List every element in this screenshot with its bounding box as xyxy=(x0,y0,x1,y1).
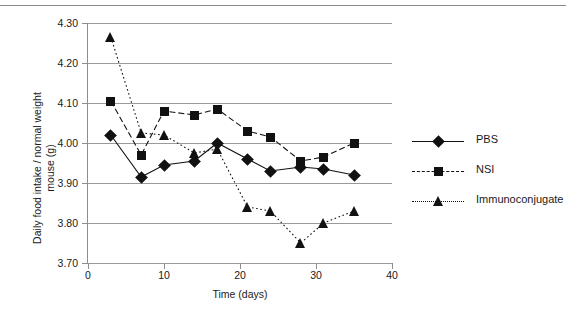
legend-item-pbs: PBS xyxy=(412,128,564,158)
legend-sample xyxy=(412,165,464,179)
y-axis-tick-label: 4.00 xyxy=(38,138,78,149)
square-marker xyxy=(137,151,146,160)
square-marker xyxy=(296,157,305,166)
triangle-marker xyxy=(136,128,146,138)
y-axis-tick-label: 3.90 xyxy=(38,178,78,189)
square-marker xyxy=(106,97,115,106)
square-marker xyxy=(434,167,443,176)
x-axis-tick-label: 20 xyxy=(220,270,260,281)
diamond-marker xyxy=(432,135,445,148)
series-line-nsi xyxy=(111,101,354,161)
triangle-marker xyxy=(295,238,305,248)
triangle-marker xyxy=(265,206,275,216)
triangle-marker xyxy=(212,144,222,154)
series-line-immunoconjugate xyxy=(111,37,354,243)
x-axis-tick-label: 40 xyxy=(372,270,412,281)
legend-item-immunoconjugate: Immunoconjugate xyxy=(412,188,564,218)
top-divider-rule xyxy=(0,5,566,6)
x-axis-title: Time (days) xyxy=(88,288,392,300)
series-lines xyxy=(88,23,392,263)
legend-sample xyxy=(412,135,464,149)
legend-item-nsi: NSI xyxy=(412,158,564,188)
y-axis-tick-label: 3.70 xyxy=(38,258,78,269)
y-axis-tick-label: 4.20 xyxy=(38,58,78,69)
chart-figure: Daily food intake / normal weight mouse … xyxy=(0,0,566,312)
square-marker xyxy=(319,153,328,162)
triangle-marker xyxy=(318,218,328,228)
legend-sample xyxy=(412,195,464,209)
triangle-marker xyxy=(433,196,443,206)
legend-label: PBS xyxy=(476,132,498,146)
y-axis-tick-label: 4.10 xyxy=(38,98,78,109)
square-marker xyxy=(243,127,252,136)
plot-area xyxy=(88,23,392,263)
y-axis-tick-label: 3.80 xyxy=(38,218,78,229)
legend-label: Immunoconjugate xyxy=(476,192,563,206)
triangle-marker xyxy=(105,32,115,42)
triangle-marker xyxy=(189,148,199,158)
square-marker xyxy=(213,105,222,114)
triangle-marker xyxy=(242,202,252,212)
square-marker xyxy=(350,139,359,148)
triangle-marker xyxy=(349,206,359,216)
y-axis-tick-labels: 3.703.803.904.004.104.204.30 xyxy=(36,0,78,312)
square-marker xyxy=(266,133,275,142)
legend-label: NSI xyxy=(476,162,494,176)
square-marker xyxy=(190,111,199,120)
y-axis-tick-label: 4.30 xyxy=(38,18,78,29)
chart-legend: PBSNSIImmunoconjugate xyxy=(412,128,564,218)
x-axis-tick-label: 30 xyxy=(296,270,336,281)
x-axis-tick-label: 10 xyxy=(144,270,184,281)
triangle-marker xyxy=(159,130,169,140)
x-axis-tick-label: 0 xyxy=(68,270,108,281)
square-marker xyxy=(160,107,169,116)
